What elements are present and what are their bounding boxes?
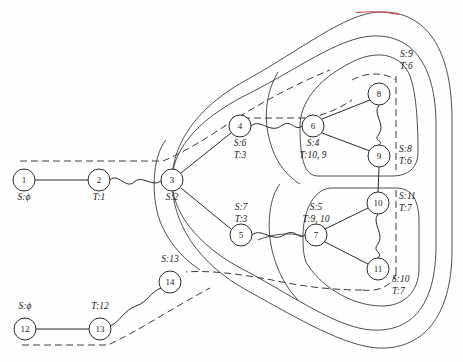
figure-canvas: 1234567891011121314 S:ϕT:1S:2S:6T:3S:7T:…: [0, 0, 463, 362]
node-8[interactable]: 8: [368, 83, 390, 105]
node-tag2-10: T:7: [399, 203, 413, 213]
node-tag-12: S:ϕ: [19, 301, 32, 311]
node-6[interactable]: 6: [302, 115, 324, 137]
edge-3-5: [181, 188, 231, 229]
node-tag-8: S:9: [400, 49, 413, 59]
node-tag2-9: T:6: [399, 156, 412, 166]
node-tag-4: S:6: [234, 138, 247, 148]
dashcut-bottom-left: [22, 288, 210, 345]
edge-7-11: [325, 242, 368, 264]
node-label-3: 3: [170, 175, 175, 185]
edge-6-8: [322, 100, 370, 119]
node-tag2-6: T:10, 9: [300, 150, 327, 160]
dashcut-over-node4: [232, 100, 352, 118]
node-label-9: 9: [377, 151, 382, 161]
node-tag-11: S:10: [392, 274, 410, 284]
node-12[interactable]: 12: [14, 318, 36, 340]
node-9[interactable]: 9: [368, 145, 390, 167]
node-10[interactable]: 10: [367, 192, 389, 214]
edge-6-9: [322, 133, 370, 151]
node-label-10: 10: [374, 198, 384, 208]
node-13[interactable]: 13: [89, 318, 111, 340]
dashcut-lower-diagonal: [186, 271, 362, 290]
edge-7-10: [325, 208, 368, 229]
node-tag2-11: T:7: [392, 286, 406, 296]
node-tag-14: S:13: [161, 254, 179, 264]
node-tag2-7: T:9, 10: [303, 214, 330, 224]
node-14[interactable]: 14: [159, 271, 181, 293]
edge-8-9: [377, 105, 381, 145]
diagram-svg: 1234567891011121314 S:ϕT:1S:2S:6T:3S:7T:…: [0, 0, 463, 362]
node-tag2-5: T:3: [235, 214, 248, 224]
node-tag-9: S:8: [399, 144, 412, 154]
node-tag-3: S:2: [166, 192, 179, 202]
node-label-2: 2: [97, 175, 102, 185]
node-label-8: 8: [377, 89, 382, 99]
node-5[interactable]: 5: [230, 224, 252, 246]
edge-4-6: [251, 123, 302, 128]
dashcut-upper-diagonal: [163, 70, 330, 161]
node-label-14: 14: [166, 277, 176, 287]
node-tag-2: T:1: [93, 192, 106, 202]
dashcut-cap-node8: [352, 74, 396, 80]
node-tag2-8: T:6: [400, 61, 413, 71]
node-label-5: 5: [239, 230, 244, 240]
node-4[interactable]: 4: [229, 115, 251, 137]
node-label-7: 7: [314, 230, 319, 240]
node-label-6: 6: [311, 121, 316, 131]
node-label-13: 13: [96, 324, 106, 334]
node-3[interactable]: 3: [161, 169, 183, 191]
node-tag2-4: T:3: [234, 150, 247, 160]
node-1[interactable]: 1: [13, 169, 35, 191]
dashed-cuts: [20, 70, 396, 345]
node-tag-5: S:7: [235, 202, 249, 212]
node-label-12: 12: [21, 324, 30, 334]
node-2[interactable]: 2: [88, 169, 110, 191]
node-label-1: 1: [22, 175, 27, 185]
edge-10-11: [376, 214, 380, 258]
node-7[interactable]: 7: [305, 224, 327, 246]
node-tag-1: S:ϕ: [18, 192, 31, 202]
node-label-4: 4: [238, 121, 243, 131]
node-11[interactable]: 11: [367, 258, 389, 280]
node-tag-10: S:11: [399, 191, 416, 201]
node-label-11: 11: [374, 264, 383, 274]
node-tag-6: S:4: [307, 138, 320, 148]
graph-nodes: 1234567891011121314: [13, 83, 390, 340]
node-tag-13: T:12: [91, 301, 109, 311]
edge-2-3: [110, 178, 161, 184]
node-tag-7: S:5: [310, 202, 323, 212]
